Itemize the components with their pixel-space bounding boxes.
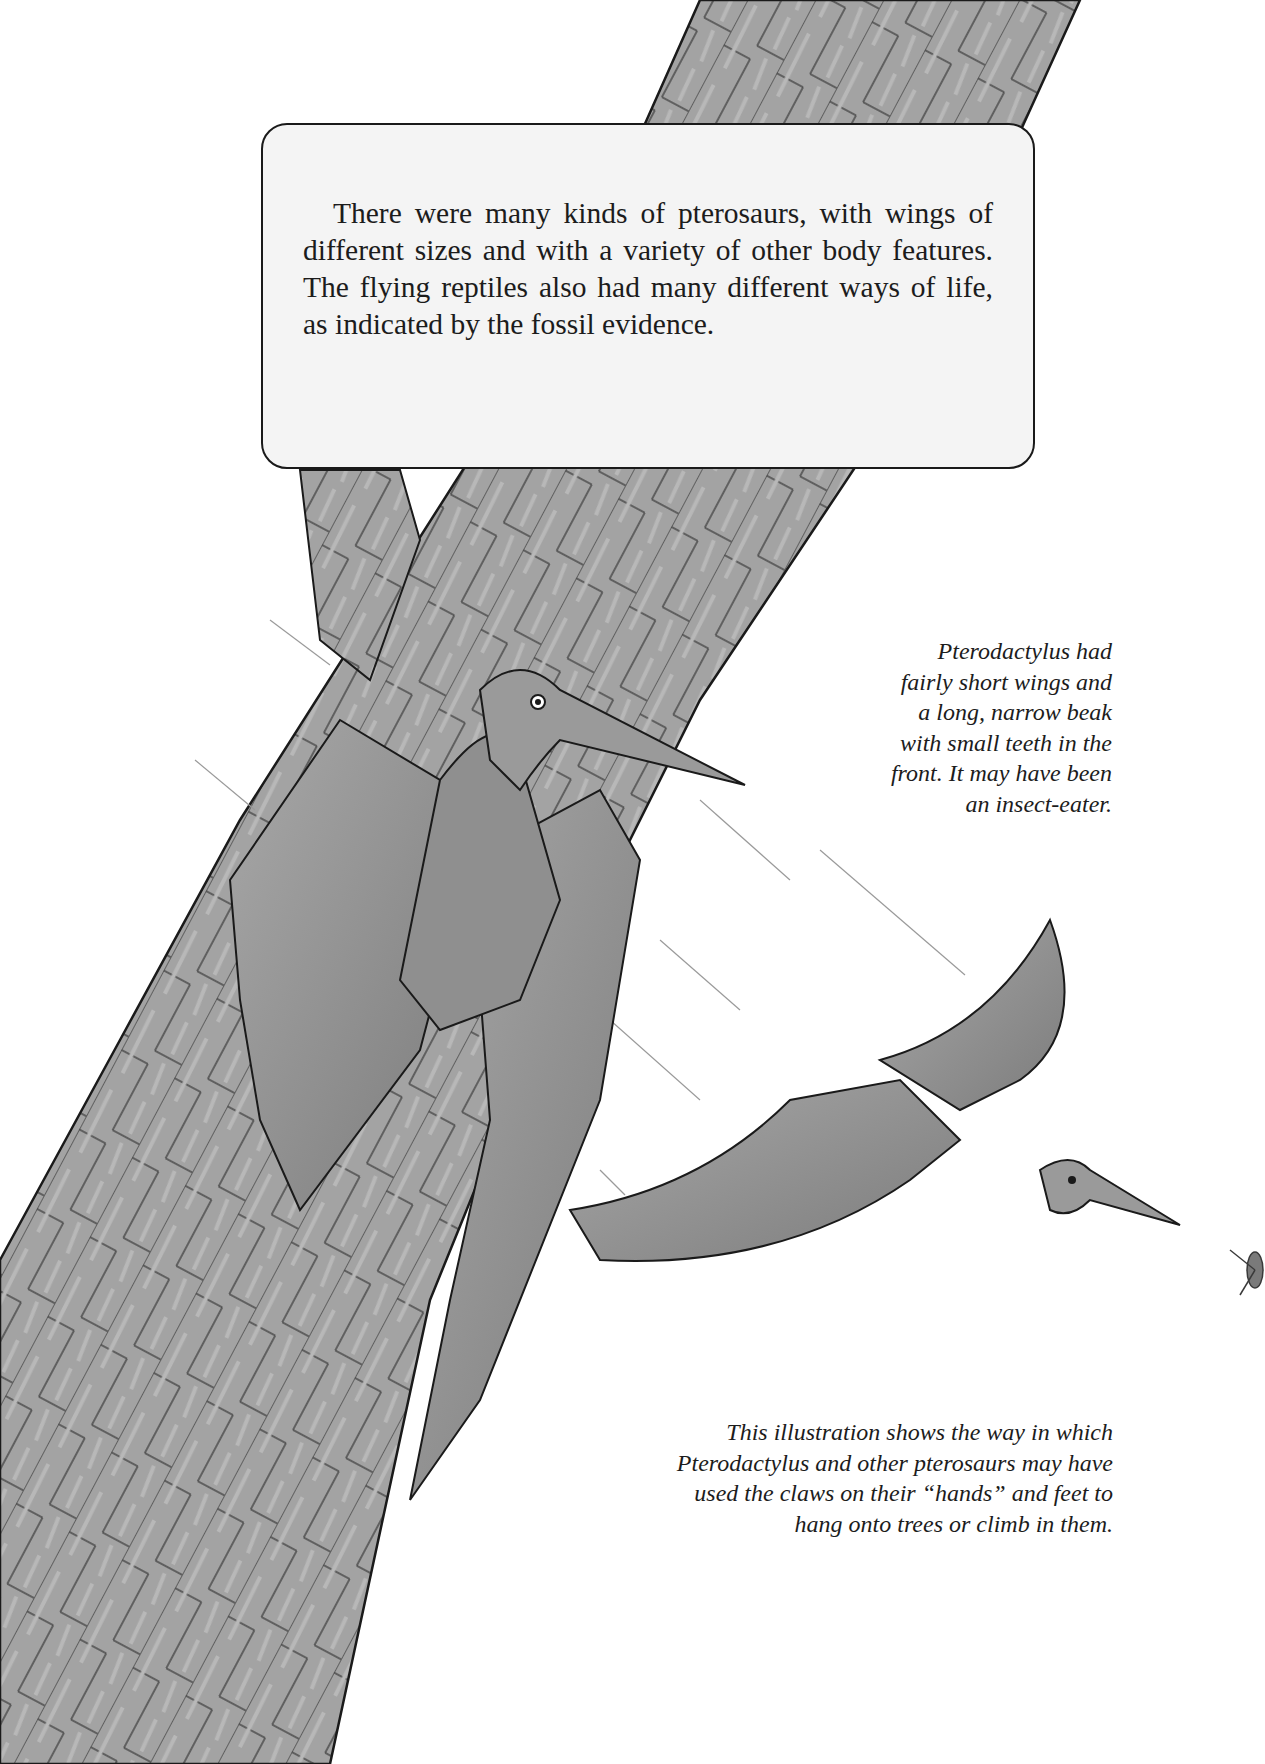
illustration-caption: This illustration shows the way in which…	[677, 1417, 1113, 1539]
insect	[1230, 1250, 1263, 1295]
caption-line: used the claws on their “hands” and feet…	[677, 1478, 1113, 1509]
caption-line: hang onto trees or climb in them.	[677, 1509, 1113, 1540]
caption-line: an insect-eater.	[891, 789, 1112, 820]
pterosaur-flying	[570, 920, 1180, 1261]
intro-text-box: There were many kinds of pterosaurs, wit…	[261, 123, 1035, 469]
caption-line: This illustration shows the way in which	[677, 1417, 1113, 1448]
caption-line: Pterodactylus had	[891, 636, 1112, 667]
intro-paragraph: There were many kinds of pterosaurs, wit…	[303, 195, 993, 343]
caption-line: fairly short wings and	[891, 667, 1112, 698]
caption-line: Pterodactylus and other pterosaurs may h…	[677, 1448, 1113, 1479]
caption-line: with small teeth in the	[891, 728, 1112, 759]
caption-line: a long, narrow beak	[891, 697, 1112, 728]
caption-line: front. It may have been	[891, 758, 1112, 789]
pterodactylus-caption: Pterodactylus had fairly short wings and…	[891, 636, 1112, 819]
